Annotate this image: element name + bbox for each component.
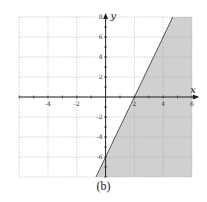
- x-tick-label: -4: [45, 100, 51, 107]
- x-tick-label: 2: [132, 100, 136, 107]
- x-tick-label: 4: [161, 100, 165, 107]
- x-axis-label: x: [190, 84, 196, 95]
- x-tick-label: -2: [74, 100, 80, 107]
- y-tick-label: 4: [99, 53, 103, 60]
- y-tick-label: -4: [97, 133, 103, 140]
- y-axis-label: y: [110, 10, 117, 21]
- y-tick-label: 8: [99, 13, 103, 20]
- plot-area: -4-22468642-2-4-6yx: [19, 10, 199, 177]
- y-tick-label: -6: [97, 153, 103, 160]
- figure-caption: (b): [0, 179, 207, 194]
- inequality-graph: -4-22468642-2-4-6yx: [0, 0, 207, 202]
- y-tick-label: 2: [99, 73, 103, 80]
- y-tick-label: -2: [97, 113, 103, 120]
- x-axis-arrow-icon: [193, 95, 199, 100]
- y-axis-arrow-icon: [103, 13, 108, 19]
- y-tick-label: 6: [99, 33, 103, 40]
- x-tick-label: 6: [190, 100, 194, 107]
